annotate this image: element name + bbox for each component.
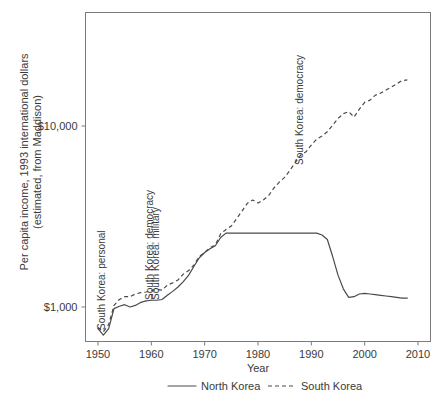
y-tick-label-10000: $10,000 [38,120,78,132]
annotation-south-korea-military: South Korea: military [150,207,161,300]
x-tick-label-1990: 1990 [299,348,323,360]
y-axis-ticks [82,126,86,307]
legend-label-north-korea: North Korea [201,380,261,392]
x-tick-label-1970: 1970 [192,348,216,360]
y-tick-label-1000: $1,000 [44,301,78,313]
x-tick-label-1980: 1980 [246,348,270,360]
x-tick-label-1950: 1950 [86,348,110,360]
x-axis-ticks [98,342,418,346]
chart-legend: North Korea South Korea [168,380,363,392]
x-axis-tick-labels: 1950196019701980199020002010 [86,348,430,360]
plot-frame [86,13,431,342]
legend-label-south-korea: South Korea [301,380,363,392]
chart-annotations: South Korea: personalSouth Korea: democr… [96,55,304,330]
y-axis-tick-labels: $1,000$10,000 [38,120,78,313]
y-axis-title-line2: (estimated, from Maddison) [31,95,43,229]
x-axis-title: Year [247,362,270,374]
chart-figure: $1,000$10,000 19501960197019801990200020… [0,0,443,402]
per-capita-income-line-chart: $1,000$10,000 19501960197019801990200020… [0,0,443,402]
x-tick-label-2010: 2010 [406,348,430,360]
y-axis-title-line1: Per capita income, 1993 international do… [18,53,30,271]
annotation-south-korea-personal: South Korea: personal [96,230,107,330]
x-tick-label-1960: 1960 [139,348,163,360]
annotation-south-korea-democracy: South Korea: democracy [294,55,305,165]
x-tick-label-2000: 2000 [352,348,376,360]
